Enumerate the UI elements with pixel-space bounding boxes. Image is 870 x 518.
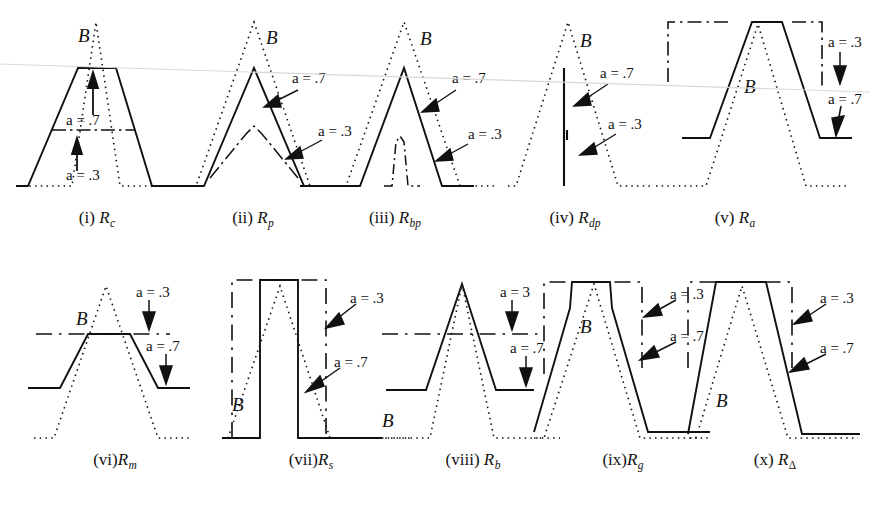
caption-symbol: R xyxy=(318,450,328,469)
caption-sub: Δ xyxy=(788,459,796,471)
arrow-alpha-03 xyxy=(580,134,616,155)
panel-r-delta: B a = .3 a = .7 xyxy=(688,272,870,444)
caption-panel-ii: (ii) Rp xyxy=(178,208,328,229)
label-alpha-03: a = .3 xyxy=(136,284,170,301)
caption-panel-vi: (vi)Rm xyxy=(40,450,190,471)
caption-num: (x) xyxy=(754,450,774,469)
arrow-alpha-07 xyxy=(832,106,844,136)
label-alpha-07: a = .7 xyxy=(334,354,368,371)
panel-r-bp: B a = .7 a = .3 xyxy=(300,8,500,198)
label-set-b: B xyxy=(382,410,394,432)
caption-symbol: R xyxy=(118,450,128,469)
arrow-alpha-07 xyxy=(422,90,456,112)
label-alpha-07: a = .7 xyxy=(146,338,180,355)
curve-alpha-03-right xyxy=(792,22,822,86)
caption-sub: g xyxy=(637,459,643,471)
caption-symbol: R xyxy=(778,450,788,469)
arrow-alpha-07 xyxy=(160,354,172,384)
arrow-alpha-07 xyxy=(306,368,340,392)
label-alpha-07: a = .7 xyxy=(66,112,100,129)
curve-b-dotted xyxy=(656,24,846,186)
label-alpha-07: a = .7 xyxy=(452,70,486,87)
label-set-b: B xyxy=(716,390,728,412)
arrow-alpha-03 xyxy=(834,52,846,84)
caption-panel-viii: (viii) Rb xyxy=(398,450,548,471)
curve-b-dotted xyxy=(304,22,498,186)
curve-alpha-03 xyxy=(210,126,298,178)
caption-num: (ix) xyxy=(602,450,627,469)
curve-alpha-07 xyxy=(534,282,710,432)
caption-panel-i: (i) Rc xyxy=(22,208,172,229)
label-alpha-07: a = .7 xyxy=(820,340,854,357)
caption-num: (ii) xyxy=(232,208,253,227)
label-set-b: B xyxy=(266,27,278,49)
label-set-b: B xyxy=(232,394,244,416)
label-alpha-03: a = .3 xyxy=(608,116,642,133)
caption-panel-iii: (iii) Rbp xyxy=(320,208,470,229)
caption-sub: b xyxy=(494,459,500,471)
arrow-alpha-03 xyxy=(794,304,826,324)
label-set-b: B xyxy=(580,316,592,338)
panel-r-c: B a = .7 a = .3 xyxy=(6,8,182,198)
label-alpha-03: a = .3 xyxy=(828,34,862,51)
arrow-alpha-07 xyxy=(88,72,98,115)
caption-sub: a xyxy=(749,217,755,229)
caption-num: (i) xyxy=(79,208,95,227)
curve-alpha-07 xyxy=(300,68,474,186)
caption-panel-iv: (iv) Rdp xyxy=(500,208,650,229)
caption-sub: m xyxy=(128,459,137,471)
caption-panel-v: (v) Ra xyxy=(660,208,810,229)
panel-r-m: B a = .3 a = .7 xyxy=(18,272,218,444)
label-set-b: B xyxy=(420,28,432,50)
caption-symbol: R xyxy=(739,208,749,227)
curve-alpha-03 xyxy=(668,22,728,82)
curve-alpha-03 xyxy=(232,280,326,438)
label-set-b: B xyxy=(78,25,90,47)
caption-panel-vii: (vii)Rs xyxy=(236,450,386,471)
caption-num: (iii) xyxy=(369,208,395,227)
arrow-alpha-07 xyxy=(264,90,298,107)
caption-symbol: R xyxy=(399,208,409,227)
panel-r-m-plot xyxy=(18,272,218,444)
caption-sub: bp xyxy=(409,217,421,229)
label-set-b: B xyxy=(580,30,592,52)
arrow-alpha-03 xyxy=(506,300,518,330)
caption-panel-ix: (ix)Rg xyxy=(548,450,698,471)
figure-root: B a = .7 a = .3 (i) Rc B a = .7 a = .3 (… xyxy=(0,0,870,518)
caption-num: (vi) xyxy=(93,450,118,469)
arrow-alpha-07 xyxy=(574,84,608,106)
label-set-b: B xyxy=(744,76,756,98)
label-alpha-03: a = .3 xyxy=(66,167,100,184)
label-alpha-03: a = .3 xyxy=(350,290,384,307)
caption-num: (viii) xyxy=(446,450,480,469)
caption-symbol: R xyxy=(627,450,637,469)
panel-r-bp-plot xyxy=(300,8,500,198)
curve-alpha-07 xyxy=(682,22,852,138)
caption-num: (v) xyxy=(715,208,735,227)
caption-symbol: R xyxy=(484,450,494,469)
caption-sub: c xyxy=(110,217,116,229)
label-alpha-03: a = .3 xyxy=(468,126,502,143)
arrow-alpha-03 xyxy=(436,144,468,161)
curve-b-dotted xyxy=(534,284,712,438)
label-set-b: B xyxy=(76,308,88,330)
caption-num: (vii) xyxy=(289,450,318,469)
label-alpha-07: a = .7 xyxy=(828,91,862,108)
caption-panel-x: (x) RΔ xyxy=(700,450,850,471)
caption-symbol: R xyxy=(99,208,109,227)
label-alpha-03: a = 3 xyxy=(500,284,530,301)
label-alpha-03: a = .3 xyxy=(820,290,854,307)
label-alpha-07: a = .7 xyxy=(600,65,634,82)
caption-sub: p xyxy=(268,217,274,229)
curve-b-dotted xyxy=(18,22,176,186)
caption-symbol: R xyxy=(257,208,267,227)
curve-alpha-03 xyxy=(384,136,420,186)
caption-num: (iv) xyxy=(549,208,574,227)
arrow-alpha-07 xyxy=(520,356,532,386)
arrow-alpha-03 xyxy=(326,304,356,328)
arrow-alpha-03 xyxy=(143,300,155,330)
caption-symbol: R xyxy=(578,208,588,227)
panel-r-a: B a = .3 a = .7 xyxy=(640,8,870,198)
caption-sub: dp xyxy=(589,217,601,229)
curve-b-dotted xyxy=(690,286,858,438)
